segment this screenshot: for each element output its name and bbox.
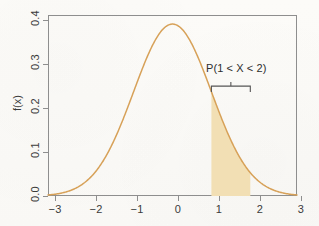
x-tick-mark — [178, 196, 179, 201]
x-axis-tick-label: −1 — [122, 203, 152, 215]
y-tick-mark — [43, 64, 48, 65]
y-axis-tick-label: 0.3 — [29, 49, 41, 75]
y-tick-mark — [43, 196, 48, 197]
y-tick-mark — [43, 152, 48, 153]
x-axis-tick-label: 0 — [163, 203, 193, 215]
density-curve-group — [48, 24, 297, 195]
y-tick-mark — [43, 108, 48, 109]
x-tick-mark — [301, 196, 302, 201]
x-axis-tick-label: 2 — [245, 203, 275, 215]
y-axis-tick-label: 0.2 — [29, 93, 41, 119]
x-axis-tick-label: −2 — [81, 203, 111, 215]
normal-density-curve — [48, 24, 297, 195]
plot-area — [48, 15, 297, 196]
y-axis-tick-label: 0.0 — [29, 181, 41, 207]
x-tick-mark — [55, 196, 56, 201]
x-tick-mark — [96, 196, 97, 201]
x-axis-tick-label: −3 — [40, 203, 70, 215]
chart-figure: P(1 < X < 2) −3 −2 −1 0 1 2 3 0.0 0.1 0.… — [0, 0, 319, 226]
x-axis-tick-label: 3 — [286, 203, 316, 215]
y-axis-title: f(x) — [11, 73, 23, 133]
x-tick-mark — [260, 196, 261, 201]
y-tick-mark — [43, 20, 48, 21]
y-axis-tick-label: 0.1 — [29, 137, 41, 163]
probability-annotation-label: P(1 < X < 2) — [206, 62, 267, 74]
annotation-bracket-icon — [211, 82, 250, 92]
x-axis-tick-label: 1 — [204, 203, 234, 215]
x-tick-mark — [219, 196, 220, 201]
y-axis-tick-label: 0.4 — [29, 5, 41, 31]
annotation-bracket-group — [211, 82, 250, 92]
x-tick-mark — [137, 196, 138, 201]
